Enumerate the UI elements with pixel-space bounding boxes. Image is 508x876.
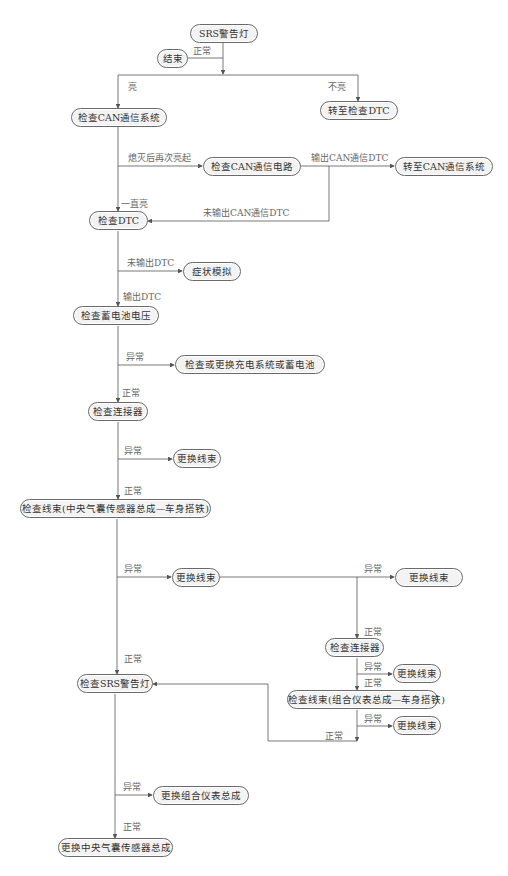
connector-lines <box>0 0 508 876</box>
node-check-can-circuit: 检查CAN通信电路 <box>203 157 301 176</box>
node-check-harness-meter: 检查线束(组合仪表总成—车身搭铁) <box>287 690 438 709</box>
label-harness-normal: 正常 <box>124 654 142 665</box>
flowchart: SRS警告灯 结束 检查CAN通信系统 转至检查DTC 检查CAN通信电路 转至… <box>0 0 508 876</box>
node-replace-harness-1: 更换线束 <box>173 449 221 468</box>
label-output-can-dtc: 输出CAN通信DTC <box>311 153 388 164</box>
label-no-can-dtc: 未输出CAN通信DTC <box>203 208 289 219</box>
node-replace-harness-5: 更换线束 <box>393 716 441 735</box>
label-battery-normal: 正常 <box>122 388 140 399</box>
label-always-lit: 一直亮 <box>121 199 148 210</box>
label-no-dtc: 未输出DTC <box>127 258 174 269</box>
node-replace-meter: 更换组合仪表总成 <box>153 786 249 805</box>
label-harness-abnormal: 异常 <box>124 564 142 575</box>
label-not-lit: 不亮 <box>328 82 346 93</box>
label-start-normal: 正常 <box>193 46 211 57</box>
label-connector2-abnormal: 异常 <box>364 662 382 673</box>
node-replace-harness-4: 更换线束 <box>393 664 441 683</box>
node-replace-harness-3: 更换线束 <box>395 568 463 587</box>
label-connector1-abnormal: 异常 <box>124 446 142 457</box>
node-goto-check-dtc: 转至检查DTC <box>320 101 398 120</box>
label-relit-after-off: 熄灭后再次亮起 <box>128 153 191 164</box>
label-meter-harness-abnormal: 异常 <box>364 714 382 725</box>
node-check-replace-charging: 检查或更换充电系统或蓄电池 <box>175 355 325 374</box>
label-harness2-abnormal: 异常 <box>364 564 382 575</box>
label-battery-abnormal: 异常 <box>126 352 144 363</box>
label-output-dtc: 输出DTC <box>123 292 161 303</box>
node-check-connector-2: 检查连接器 <box>325 638 384 657</box>
node-replace-harness-2: 更换线束 <box>172 568 220 587</box>
node-check-connector-1: 检查连接器 <box>88 402 148 421</box>
node-replace-airbag-sensor: 更换中央气囊传感器总成 <box>58 838 173 857</box>
label-connector2-to-harness-normal: 正常 <box>364 678 382 689</box>
node-end: 结束 <box>157 49 188 68</box>
node-check-can-system: 检查CAN通信系统 <box>71 108 167 127</box>
node-check-dtc: 检查DTC <box>89 211 148 230</box>
node-srs-warning-light: SRS警告灯 <box>190 24 258 43</box>
label-connector1-normal: 正常 <box>124 486 142 497</box>
node-symptom-simulation: 症状模拟 <box>183 262 241 281</box>
node-check-harness-airbag: 检查线束(中央气囊传感器总成—车身搭铁) <box>20 499 211 518</box>
node-goto-can-system: 转至CAN通信系统 <box>395 157 493 176</box>
label-connector2-normal: 正常 <box>364 627 382 638</box>
label-srs-abnormal: 异常 <box>123 782 141 793</box>
label-srs-normal: 正常 <box>123 822 141 833</box>
label-lit: 亮 <box>128 82 137 93</box>
node-check-battery-voltage: 检查蓄电池电压 <box>73 306 159 325</box>
node-check-srs-light: 检查SRS警告灯 <box>77 674 153 693</box>
label-meter-harness-normal: 正常 <box>325 731 343 742</box>
